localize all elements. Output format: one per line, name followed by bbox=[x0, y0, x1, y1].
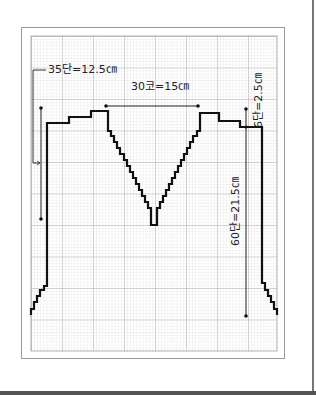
right-shoulder-label: 6단=2.5㎝ bbox=[253, 73, 264, 128]
left-height-label: 35단=12.5㎝ bbox=[48, 64, 117, 75]
top-width-label: 30코=15㎝ bbox=[131, 81, 189, 92]
right-height-label: 60단=21.5㎝ bbox=[230, 177, 241, 246]
page-edge-bottom bbox=[0, 391, 316, 395]
chart-svg bbox=[0, 0, 316, 395]
knitting-diagram: 35단=12.5㎝ 30코=15㎝ 6단=2.5㎝ 60단=21.5㎝ bbox=[0, 0, 316, 395]
page-edge-right bbox=[312, 0, 314, 392]
